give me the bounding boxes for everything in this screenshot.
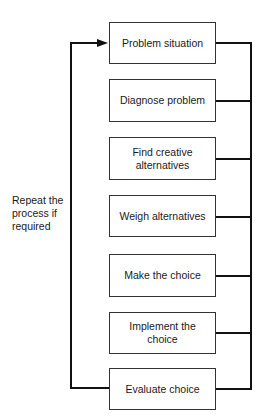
connector-step-1 — [216, 42, 252, 44]
step-make-the-choice: Make the choice — [109, 254, 216, 297]
right-connector-bottom — [250, 328, 252, 390]
connector-step-3 — [216, 158, 252, 160]
arrow-right-icon — [97, 39, 108, 47]
step-label: Weigh alternatives — [119, 210, 205, 223]
connector-step-4 — [216, 216, 252, 218]
step-implement-the-choice: Implement the choice — [109, 312, 216, 354]
step-find-creative-alternatives: Find creative alternatives — [109, 137, 216, 180]
step-weigh-alternatives: Weigh alternatives — [109, 195, 216, 237]
feedback-label: Repeat the process if required — [12, 194, 70, 233]
connector-step-2 — [216, 100, 252, 102]
feedback-loop-top — [70, 42, 98, 44]
step-evaluate-choice: Evaluate choice — [109, 368, 216, 410]
step-label: Make the choice — [124, 269, 200, 282]
feedback-loop-vertical — [70, 42, 72, 389]
step-label: Diagnose problem — [120, 94, 205, 107]
step-label: Find creative alternatives — [128, 146, 197, 172]
step-label: Evaluate choice — [125, 383, 199, 396]
connector-step-7 — [216, 388, 252, 390]
feedback-label-text: Repeat the process if required — [12, 194, 63, 232]
right-connector-vertical — [250, 42, 252, 328]
connector-step-6 — [216, 332, 252, 334]
step-label: Implement the choice — [124, 320, 201, 346]
connector-step-5 — [216, 275, 252, 277]
feedback-loop-bottom — [70, 387, 110, 389]
step-problem-situation: Problem situation — [109, 22, 216, 64]
step-label: Problem situation — [122, 37, 203, 50]
step-diagnose-problem: Diagnose problem — [109, 79, 216, 122]
